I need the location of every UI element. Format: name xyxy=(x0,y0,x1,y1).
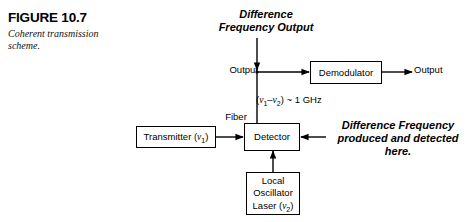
label-frequency-difference: (ν1–ν2) ~ 1 GHz xyxy=(256,94,322,107)
block-transmitter[interactable]: Transmitter (ν1) xyxy=(136,126,216,148)
block-local-oscillator[interactable]: LocalOscillatorLaser (ν2) xyxy=(246,172,300,215)
block-transmitter-label: Transmitter (ν1) xyxy=(144,131,209,144)
block-local-oscillator-label: LocalOscillatorLaser (ν2) xyxy=(253,175,294,213)
block-detector[interactable]: Detector xyxy=(244,123,300,151)
figure-page: FIGURE 10.7 Coherent transmission scheme… xyxy=(0,0,468,222)
block-demodulator-label: Demodulator xyxy=(319,67,373,79)
label-difference-frequency-output: Difference Frequency Output xyxy=(212,8,320,34)
coherent-transmission-diagram: Transmitter (ν1) Detector Demodulator Lo… xyxy=(0,0,468,222)
block-detector-label: Detector xyxy=(254,131,290,143)
block-demodulator[interactable]: Demodulator xyxy=(310,61,382,84)
label-output-right: Output xyxy=(414,64,443,76)
label-output-left: Output xyxy=(206,64,258,76)
label-fiber: Fiber xyxy=(216,111,256,123)
label-difference-frequency-note: Difference Frequency produced and detect… xyxy=(330,119,466,158)
